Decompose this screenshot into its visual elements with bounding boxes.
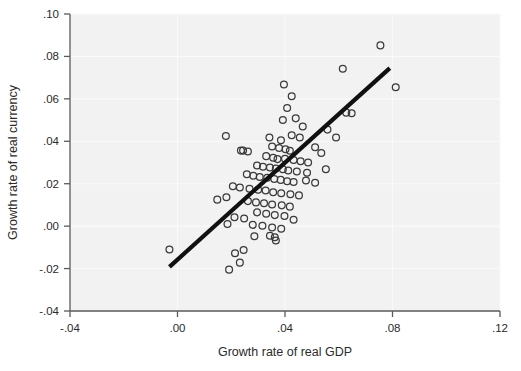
y-axis-title: Growth rate of real currency bbox=[6, 84, 20, 240]
x-tick-label: .04 bbox=[277, 322, 294, 334]
y-tick-label: .02 bbox=[43, 178, 59, 190]
y-tick-label: .10 bbox=[43, 8, 59, 20]
y-tick-label: .00 bbox=[43, 220, 59, 232]
chart-canvas: -.04.00.04.08.12 -.04-.02.00.02.04.06.08… bbox=[0, 0, 521, 371]
y-tick-label: .08 bbox=[43, 50, 59, 62]
y-tick-label: -.04 bbox=[39, 305, 59, 317]
scatter-chart: -.04.00.04.08.12 -.04-.02.00.02.04.06.08… bbox=[0, 0, 521, 371]
y-tick-label: .06 bbox=[43, 93, 59, 105]
y-tick-label: .04 bbox=[43, 135, 60, 147]
x-tick-label: .00 bbox=[170, 322, 186, 334]
x-tick-label: .08 bbox=[385, 322, 401, 334]
x-axis-title: Growth rate of real GDP bbox=[218, 345, 352, 359]
x-tick-label: .12 bbox=[492, 322, 508, 334]
y-tick-label: -.02 bbox=[39, 263, 59, 275]
x-tick-label: -.04 bbox=[60, 322, 80, 334]
